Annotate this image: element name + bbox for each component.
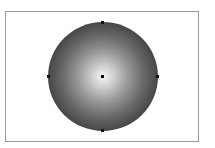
left-handle[interactable] bbox=[47, 75, 50, 78]
center-point-handle[interactable] bbox=[101, 75, 104, 78]
bottom-handle[interactable] bbox=[101, 129, 104, 132]
right-handle[interactable] bbox=[156, 75, 159, 78]
top-handle[interactable] bbox=[101, 21, 104, 24]
